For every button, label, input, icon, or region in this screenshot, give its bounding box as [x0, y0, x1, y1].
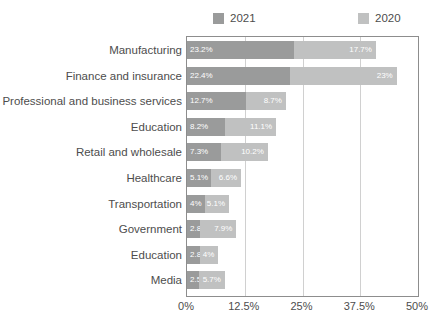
bar-segment-2020[interactable]: 6.6%: [211, 169, 241, 187]
bar-value-label: 8.7%: [264, 96, 286, 106]
bar-segment-2020[interactable]: 5.7%: [199, 271, 225, 289]
chart-row: Transportation4%5.1%: [0, 195, 447, 213]
legend-label-2020: 2020: [375, 12, 401, 25]
bar-value-label: 7.9%: [214, 224, 236, 234]
chart-row: Professional and business services12.7%8…: [0, 92, 447, 110]
bar-segment-2021[interactable]: 2.5%: [187, 271, 199, 289]
legend-label-2021: 2021: [230, 12, 256, 25]
chart-rows: Manufacturing23.2%17.7%Finance and insur…: [0, 36, 447, 297]
x-tick-label: 50%: [406, 300, 428, 313]
bar-segment-2021[interactable]: 23.2%: [187, 41, 294, 59]
bar-value-label: 23%: [377, 71, 397, 81]
chart-row: Retail and wholesale7.3%10.2%: [0, 143, 447, 161]
category-label: Finance and insurance: [0, 69, 182, 83]
bar-track: 12.7%8.7%: [187, 92, 286, 110]
legend-item-2021: 2021: [213, 12, 256, 25]
bar-value-label: 11.1%: [250, 122, 276, 132]
category-label: Retail and wholesale: [0, 145, 182, 159]
bar-track: 22.4%23%: [187, 67, 397, 85]
bar-segment-2021[interactable]: 2.8%: [187, 246, 200, 264]
chart-row: Government2.8%7.9%: [0, 220, 447, 238]
category-label: Education: [0, 120, 182, 134]
bar-value-label: 5.1%: [207, 199, 229, 209]
bar-segment-2020[interactable]: 23%: [290, 67, 396, 85]
chart-row: Manufacturing23.2%17.7%: [0, 41, 447, 59]
bar-value-label: 5.1%: [187, 173, 208, 183]
category-label: Healthcare: [0, 171, 182, 185]
bar-segment-2021[interactable]: 8.2%: [187, 118, 225, 136]
chart-row: Finance and insurance22.4%23%: [0, 67, 447, 85]
bar-value-label: 10.2%: [241, 147, 268, 157]
legend-swatch-2021: [213, 13, 224, 24]
bar-track: 7.3%10.2%: [187, 143, 268, 161]
bar-track: 5.1%6.6%: [187, 169, 241, 187]
category-label: Manufacturing: [0, 43, 182, 57]
chart-row: Education8.2%11.1%: [0, 118, 447, 136]
bar-segment-2020[interactable]: 7.9%: [200, 220, 236, 238]
category-label: Professional and business services: [0, 94, 182, 108]
bar-track: 2.5%5.7%: [187, 271, 225, 289]
bar-track: 4%5.1%: [187, 195, 229, 213]
bar-segment-2020[interactable]: 5.1%: [205, 195, 229, 213]
x-axis-ticks: 0%12.5%25%37.5%50%: [186, 300, 419, 320]
x-tick-label: 0%: [178, 300, 194, 313]
bar-segment-2021[interactable]: 22.4%: [187, 67, 290, 85]
bar-track: 2.8%7.9%: [187, 220, 236, 238]
bar-segment-2020[interactable]: 4%: [200, 246, 218, 264]
x-tick-label: 25%: [290, 300, 312, 313]
bar-value-label: 8.2%: [187, 122, 208, 132]
chart-row: Media2.5%5.7%: [0, 271, 447, 289]
chart-row: Healthcare5.1%6.6%: [0, 169, 447, 187]
bar-segment-2020[interactable]: 10.2%: [221, 143, 268, 161]
bar-segment-2020[interactable]: 8.7%: [246, 92, 286, 110]
bar-value-label: 22.4%: [187, 71, 213, 81]
category-label: Government: [0, 222, 182, 236]
bar-segment-2021[interactable]: 5.1%: [187, 169, 211, 187]
bar-track: 23.2%17.7%: [187, 41, 376, 59]
category-label: Education: [0, 248, 182, 262]
category-label: Media: [0, 273, 182, 287]
bar-track: 8.2%11.1%: [187, 118, 276, 136]
x-tick-label: 12.5%: [228, 300, 259, 313]
bar-segment-2020[interactable]: 17.7%: [294, 41, 376, 59]
chart-legend: 2021 2020: [0, 12, 447, 32]
bar-value-label: 4%: [203, 250, 219, 260]
bar-value-label: 23.2%: [187, 45, 213, 55]
legend-item-2020: 2020: [358, 12, 401, 25]
bar-track: 2.8%4%: [187, 246, 218, 264]
chart-row: Education2.8%4%: [0, 246, 447, 264]
bar-value-label: 5.7%: [203, 275, 225, 285]
bar-value-label: 6.6%: [219, 173, 241, 183]
bar-segment-2020[interactable]: 11.1%: [225, 118, 276, 136]
bar-segment-2021[interactable]: 7.3%: [187, 143, 221, 161]
bar-value-label: 12.7%: [187, 96, 213, 106]
bar-value-label: 4%: [187, 199, 202, 209]
bar-value-label: 17.7%: [349, 45, 376, 55]
bar-segment-2021[interactable]: 2.8%: [187, 220, 200, 238]
legend-swatch-2020: [358, 13, 369, 24]
x-tick-label: 37.5%: [344, 300, 375, 313]
category-label: Transportation: [0, 197, 182, 211]
bar-segment-2021[interactable]: 12.7%: [187, 92, 246, 110]
bar-segment-2021[interactable]: 4%: [187, 195, 205, 213]
bar-value-label: 7.3%: [187, 147, 208, 157]
